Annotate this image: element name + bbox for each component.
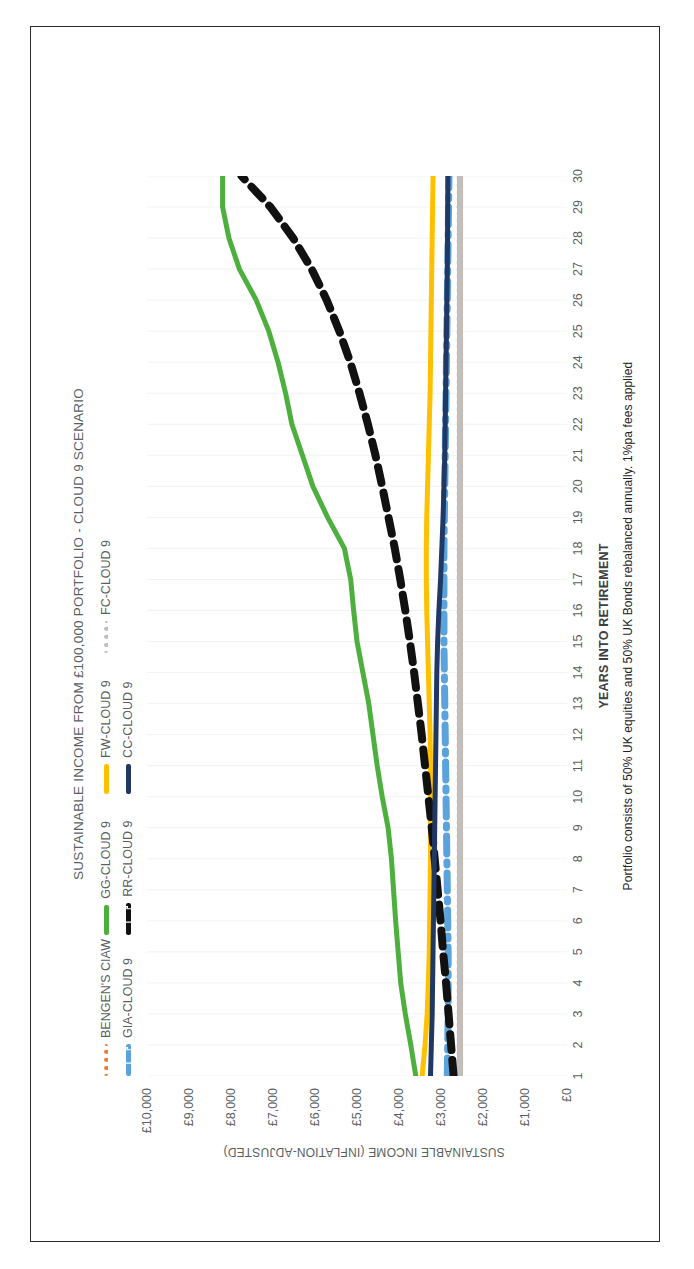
legend-item[interactable]: GIA-CLOUD 9 bbox=[121, 939, 135, 1076]
x-axis-tick-label: 1 bbox=[571, 1073, 585, 1080]
x-axis-tick-label: 27 bbox=[571, 262, 585, 276]
x-axis-tick-label: 12 bbox=[571, 728, 585, 742]
legend-item[interactable]: CC-CLOUD 9 bbox=[121, 657, 135, 794]
chart-title: SUSTAINABLE INCOME FROM £100,000 PORTFOL… bbox=[71, 74, 86, 1194]
legend-item[interactable]: GG-CLOUD 9 bbox=[99, 798, 113, 935]
x-axis-tick-label: 29 bbox=[571, 200, 585, 214]
x-axis-tick-label: 25 bbox=[571, 324, 585, 338]
legend-swatch-icon bbox=[104, 1044, 108, 1076]
y-axis-tick-label: £9,000 bbox=[182, 1088, 196, 1126]
x-axis-tick-label: 13 bbox=[571, 697, 585, 711]
x-axis-tick-label: 5 bbox=[571, 948, 585, 955]
x-axis-tick-label: 10 bbox=[571, 790, 585, 804]
y-axis-tick-label: £7,000 bbox=[266, 1088, 280, 1126]
x-axis-tick-label: 23 bbox=[571, 386, 585, 400]
x-axis-tick-label: 21 bbox=[571, 448, 585, 462]
series-line-rr-cloud-9 bbox=[242, 176, 454, 1076]
legend-swatch-icon bbox=[126, 903, 131, 935]
y-axis-title: SUSTAINABLE INCOME (INFLATION-ADJUSTED) bbox=[154, 1145, 574, 1159]
x-axis-tick-label: 22 bbox=[571, 417, 585, 431]
plot-area bbox=[147, 176, 567, 1076]
rotated-figure-container: SUSTAINABLE INCOME FROM £100,000 PORTFOL… bbox=[65, 74, 625, 1194]
x-axis-tick-label: 28 bbox=[571, 231, 585, 245]
x-axis-tick-label: 6 bbox=[571, 917, 585, 924]
legend-swatch-icon bbox=[104, 905, 109, 935]
legend-item[interactable]: FW-CLOUD 9 bbox=[99, 657, 113, 794]
legend-item[interactable]: RR-CLOUD 9 bbox=[121, 798, 135, 935]
plot-svg bbox=[147, 176, 567, 1076]
x-axis-tick-label: 4 bbox=[571, 979, 585, 986]
y-axis-ticks: £0£1,000£2,000£3,000£4,000£5,000£6,000£7… bbox=[147, 1082, 567, 1194]
y-axis-tick-label: £4,000 bbox=[392, 1088, 406, 1126]
x-axis-tick-label: 15 bbox=[571, 635, 585, 649]
y-axis-tick-label: £10,000 bbox=[140, 1088, 154, 1133]
legend-label: GG-CLOUD 9 bbox=[99, 821, 113, 899]
series-line-gg-cloud-9 bbox=[223, 176, 416, 1076]
legend-label: BENGEN'S CIAW bbox=[99, 939, 113, 1038]
legend-label: FC-CLOUD 9 bbox=[99, 540, 113, 615]
legend-swatch-icon bbox=[104, 621, 108, 653]
x-axis-tick-label: 17 bbox=[571, 573, 585, 587]
y-axis-tick-label: £2,000 bbox=[476, 1088, 490, 1126]
x-axis-tick-label: 26 bbox=[571, 293, 585, 307]
x-axis-tick-label: 30 bbox=[571, 169, 585, 183]
legend-item[interactable]: FC-CLOUD 9 bbox=[99, 516, 113, 653]
legend-label: GIA-CLOUD 9 bbox=[121, 958, 135, 1038]
x-axis-tick-label: 24 bbox=[571, 355, 585, 369]
y-axis-tick-label: £1,000 bbox=[518, 1088, 532, 1126]
legend-swatch-icon bbox=[104, 764, 109, 794]
legend-swatch-icon bbox=[126, 764, 131, 794]
legend-label: RR-CLOUD 9 bbox=[121, 820, 135, 896]
x-axis-tick-label: 14 bbox=[571, 666, 585, 680]
chart-footnote: Portfolio consists of 50% UK equities an… bbox=[621, 176, 635, 1076]
y-axis-tick-label: £0 bbox=[560, 1088, 574, 1102]
page-border: SUSTAINABLE INCOME FROM £100,000 PORTFOL… bbox=[30, 26, 660, 1242]
chart-figure: SUSTAINABLE INCOME FROM £100,000 PORTFOL… bbox=[65, 74, 625, 1194]
x-axis-title: YEARS INTO RETIREMENT bbox=[597, 176, 611, 1076]
legend-swatch-icon bbox=[126, 1044, 131, 1076]
legend-label: FW-CLOUD 9 bbox=[99, 680, 113, 758]
y-axis-tick-label: £5,000 bbox=[350, 1088, 364, 1126]
legend-label: CC-CLOUD 9 bbox=[121, 681, 135, 757]
x-axis-tick-label: 3 bbox=[571, 1010, 585, 1017]
chart-legend: BENGEN'S CIAWGG-CLOUD 9FW-CLOUD 9FC-CLOU… bbox=[95, 516, 139, 1076]
x-axis-tick-label: 20 bbox=[571, 479, 585, 493]
x-axis-tick-label: 16 bbox=[571, 604, 585, 618]
x-axis-tick-label: 11 bbox=[571, 759, 585, 772]
y-axis-tick-label: £3,000 bbox=[434, 1088, 448, 1126]
legend-item[interactable]: BENGEN'S CIAW bbox=[99, 939, 113, 1076]
y-axis-tick-label: £6,000 bbox=[308, 1088, 322, 1126]
x-axis-tick-label: 2 bbox=[571, 1041, 585, 1048]
screenshot-page: SUSTAINABLE INCOME FROM £100,000 PORTFOL… bbox=[0, 0, 694, 1269]
x-axis-tick-label: 9 bbox=[571, 824, 585, 831]
x-axis-tick-label: 8 bbox=[571, 855, 585, 862]
x-axis-tick-label: 7 bbox=[571, 886, 585, 893]
x-axis-ticks: 1234567891011121314151617181920212223242… bbox=[571, 176, 593, 1076]
y-axis-tick-label: £8,000 bbox=[224, 1088, 238, 1126]
x-axis-tick-label: 19 bbox=[571, 510, 585, 524]
x-axis-tick-label: 18 bbox=[571, 541, 585, 555]
